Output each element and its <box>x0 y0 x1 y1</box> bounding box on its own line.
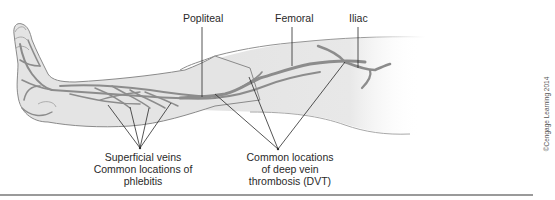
caption-line: Superficial veins <box>93 151 193 163</box>
caption-line: of deep vein <box>240 163 340 175</box>
dvt-leader-point <box>277 148 279 150</box>
phlebitis-leader-point <box>139 147 141 149</box>
label-iliac: Iliac <box>349 12 368 24</box>
bottom-divider <box>0 194 533 196</box>
copyright-notice: ©Cengage Learning 2014 <box>543 77 550 152</box>
caption-dvt: Common locations of deep vein thrombosis… <box>240 151 340 187</box>
caption-line: Common locations of <box>93 163 193 175</box>
caption-line: phlebitis <box>93 175 193 187</box>
leg-vein-diagram: Popliteal Femoral Iliac Superficial vein… <box>0 0 555 200</box>
label-popliteal: Popliteal <box>183 12 223 24</box>
lower-leg-foot-shape <box>14 24 260 127</box>
caption-superficial-veins: Superficial veins Common locations of ph… <box>93 151 193 187</box>
caption-line: thrombosis (DVT) <box>240 175 340 187</box>
label-femoral: Femoral <box>275 12 314 24</box>
caption-line: Common locations <box>240 151 340 163</box>
